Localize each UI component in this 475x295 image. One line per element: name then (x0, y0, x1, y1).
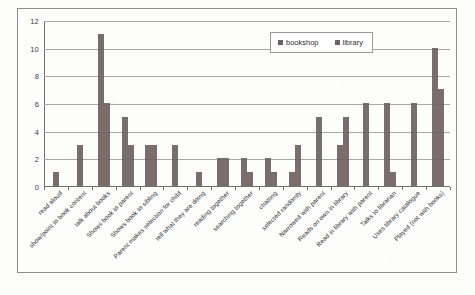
bar-bookshop[interactable] (316, 117, 322, 186)
bar-library[interactable] (151, 145, 157, 187)
bar-bookshop[interactable] (53, 172, 59, 186)
bar-group[interactable] (92, 20, 116, 186)
legend-swatch-icon (278, 40, 283, 45)
chart-figure: 024681012 bookshoplibrary read aloudshow… (0, 0, 475, 295)
bar-group[interactable] (187, 20, 211, 186)
legend-entry-bookshop[interactable]: bookshop (278, 38, 319, 47)
x-axis-tick (450, 187, 451, 190)
bar-group[interactable] (378, 20, 402, 186)
bar-bookshop[interactable] (196, 172, 202, 186)
y-axis-tick-label: 6 (35, 100, 39, 109)
bar-library[interactable] (295, 145, 301, 187)
bar-group[interactable] (140, 20, 164, 186)
bar-library[interactable] (271, 172, 277, 186)
legend-entry-library[interactable]: library (335, 38, 363, 47)
bar-library[interactable] (104, 103, 110, 186)
legend-label: library (343, 38, 363, 47)
bar-library[interactable] (172, 145, 178, 187)
y-axis-tick-label: 2 (35, 155, 39, 164)
x-axis-category-labels: read aloudshow/point to book contenttalk… (44, 188, 450, 274)
bar-bookshop[interactable] (411, 103, 417, 186)
bar-library[interactable] (247, 172, 253, 186)
bar-group[interactable] (235, 20, 259, 186)
bar-group[interactable] (68, 20, 92, 186)
y-axis-tick-label: 8 (35, 72, 39, 81)
bar-library[interactable] (128, 145, 134, 187)
bar-group[interactable] (402, 20, 426, 186)
x-axis-label: chatting (258, 190, 279, 211)
bar-group[interactable] (211, 20, 235, 186)
y-axis-tick-label: 12 (30, 17, 39, 26)
bar-group[interactable] (426, 20, 450, 186)
bar-group[interactable] (44, 20, 68, 186)
bar-bookshop[interactable] (363, 103, 369, 186)
bar-library[interactable] (438, 89, 444, 186)
legend-label: bookshop (286, 38, 319, 47)
legend-swatch-icon (335, 40, 340, 45)
bar-library[interactable] (390, 172, 396, 186)
y-axis-tick-label: 0 (35, 183, 39, 192)
bar-library[interactable] (343, 117, 349, 186)
chart-legend: bookshoplibrary (270, 32, 373, 53)
y-axis-tick-label: 10 (30, 44, 39, 53)
bar-group[interactable] (116, 20, 140, 186)
plot-area: 024681012 (44, 21, 450, 187)
x-axis-label: Played (not with books) (393, 190, 445, 242)
bars-layer (44, 21, 450, 187)
bar-group[interactable] (163, 20, 187, 186)
bar-bookshop[interactable] (77, 145, 83, 187)
y-axis-tick-label: 4 (35, 127, 39, 136)
bar-library[interactable] (223, 158, 229, 186)
